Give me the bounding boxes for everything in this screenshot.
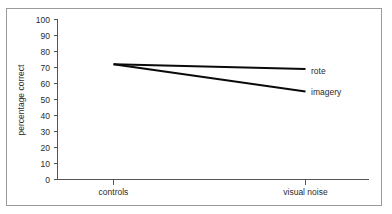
y-tick-group-10: 10 <box>41 159 58 169</box>
series-label-rote: rote <box>311 66 326 76</box>
y-tick-group-80: 80 <box>41 47 58 57</box>
y-tick-label-10: 10 <box>41 159 51 169</box>
y-tick-group-60: 60 <box>41 79 58 89</box>
y-tick-group-50: 50 <box>41 95 58 105</box>
y-tick-label-30: 30 <box>41 127 51 137</box>
y-tick-label-70: 70 <box>41 63 51 73</box>
y-axis-title: percentage correct <box>16 64 26 136</box>
x-tick-group-controls: controls <box>99 180 129 198</box>
x-tick-group-visual-noise: visual noise <box>283 180 328 198</box>
y-tick-group-100: 100 <box>36 15 58 25</box>
y-tick-label-90: 90 <box>41 31 51 41</box>
y-tick-label-40: 40 <box>41 111 51 121</box>
y-tick-group-0: 0 <box>45 175 57 185</box>
x-tick-label-controls: controls <box>99 187 129 197</box>
y-tick-group-30: 30 <box>41 127 58 137</box>
line-chart-plot: percentage correct 100 90 80 70 60 50 <box>0 0 392 214</box>
chart-figure: percentage correct 100 90 80 70 60 50 <box>0 0 392 214</box>
y-tick-group-90: 90 <box>41 31 58 41</box>
series-label-imagery: imagery <box>311 87 342 97</box>
y-tick-group-70: 70 <box>41 63 58 73</box>
x-tick-label-visual-noise: visual noise <box>283 187 328 197</box>
y-tick-label-20: 20 <box>41 143 51 153</box>
y-tick-label-80: 80 <box>41 47 51 57</box>
y-tick-group-40: 40 <box>41 111 58 121</box>
y-tick-label-0: 0 <box>45 175 50 185</box>
y-tick-label-50: 50 <box>41 95 51 105</box>
y-tick-group-20: 20 <box>41 143 58 153</box>
y-tick-label-60: 60 <box>41 79 51 89</box>
y-tick-label-100: 100 <box>36 15 50 25</box>
